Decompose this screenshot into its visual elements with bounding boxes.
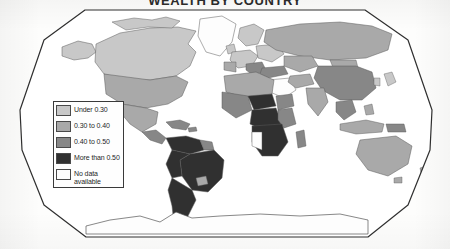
legend-label-under-030: Under 0.30 [74,104,108,114]
legend-label-more-050: More than 0.50 [74,152,120,162]
map-legend[interactable]: Under 0.30 0.30 to 0.40 0.40 to 0.50 Mor… [53,101,124,188]
region-iberia [224,62,236,72]
legend-label-030-040: 0.30 to 0.40 [74,120,110,130]
island-new-guinea [386,124,406,132]
legend-swatch-030-040 [56,121,71,132]
legend-swatch-more-050 [56,153,71,164]
island-hispaniola [188,127,197,132]
country-korea [374,78,380,86]
legend-item-no-data[interactable]: No data available [54,168,123,190]
map-figure: WEALTH BY COUNTRY [0,0,450,249]
legend-label-040-050: 0.40 to 0.50 [74,136,110,146]
island-tasmania [394,177,402,183]
legend-swatch-under-030 [56,105,71,116]
legend-item-under-030[interactable]: Under 0.30 [54,104,123,120]
legend-swatch-040-050 [56,137,71,148]
legend-swatch-no-data [56,169,71,180]
country-paraguay [196,176,208,186]
legend-item-030-040[interactable]: 0.30 to 0.40 [54,120,123,136]
legend-item-040-050[interactable]: 0.40 to 0.50 [54,136,123,152]
island-madagascar [296,130,306,148]
legend-item-more-050[interactable]: More than 0.50 [54,152,123,168]
legend-label-no-data: No data available [74,168,101,186]
country-philippines [364,104,374,115]
